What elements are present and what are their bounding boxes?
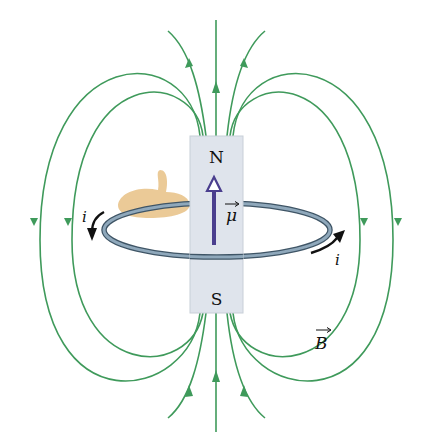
field-line-outer-right xyxy=(233,74,393,382)
current-label-left: i xyxy=(82,208,87,226)
mu-label: μ xyxy=(226,205,237,225)
arrow-down-icon xyxy=(360,218,368,226)
current-arrow-left: i xyxy=(82,208,104,241)
field-line-bottom-right xyxy=(227,313,265,418)
arrow-up-icon xyxy=(185,58,193,68)
field-line-bottom-left xyxy=(168,313,206,418)
magnet-field-diagram: N S μ i i B xyxy=(0,0,423,448)
south-pole-label: S xyxy=(211,289,223,309)
b-field-label: B xyxy=(314,333,328,353)
field-line-outer-left xyxy=(40,74,200,382)
field-line-top-right xyxy=(227,31,265,136)
current-loop-front xyxy=(190,257,243,258)
arrow-up-icon xyxy=(185,385,193,397)
arrow-up-icon xyxy=(212,370,220,382)
field-line-inner-left xyxy=(72,92,203,356)
arrow-down-icon xyxy=(394,218,402,226)
north-pole-label: N xyxy=(209,147,224,167)
current-label-right: i xyxy=(335,251,340,269)
arrow-up-icon xyxy=(240,385,248,397)
field-label: B xyxy=(314,328,331,354)
arrow-down-icon xyxy=(30,218,38,226)
arrow-up-icon xyxy=(212,81,220,93)
field-line-top-left xyxy=(168,31,206,136)
field-line-inner-right xyxy=(230,92,360,356)
arrow-down-icon xyxy=(64,218,72,226)
